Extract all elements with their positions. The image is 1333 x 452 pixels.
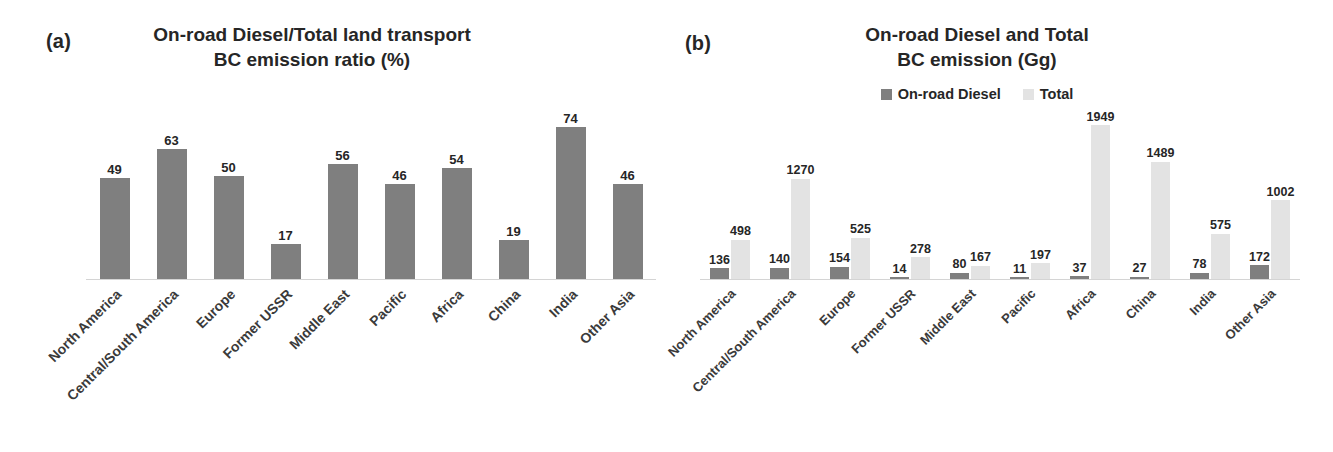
- panel-a-title-line2: BC emission ratio (%): [112, 47, 512, 72]
- bar-group: 49: [86, 110, 143, 279]
- x-axis-tick: Pacific: [1000, 282, 1060, 412]
- bar: [385, 184, 415, 279]
- bar-value-label: 46: [620, 169, 634, 182]
- bar-holder: 1949: [1091, 125, 1110, 279]
- bar-group: 46: [599, 110, 656, 279]
- bar-holder: 140: [770, 268, 789, 279]
- bar-value-label: 78: [1193, 258, 1207, 271]
- bar-holder: 37: [1070, 276, 1089, 279]
- bar-holder: 14: [890, 277, 909, 279]
- bar-column: 167: [971, 112, 990, 279]
- bar-holder: 154: [830, 267, 849, 279]
- x-axis-tick: Former USSR: [257, 282, 314, 412]
- x-axis-tick: Other Asia: [599, 282, 656, 412]
- bar-group: 54: [428, 110, 485, 279]
- bar-column: 37: [1070, 112, 1089, 279]
- legend-label: Total: [1040, 86, 1074, 102]
- bar-value-label: 27: [1133, 262, 1147, 275]
- panel-b-title-line1: On-road Diesel and Total: [762, 22, 1192, 47]
- x-axis-tick: Pacific: [371, 282, 428, 412]
- bar-column: 1002: [1271, 112, 1290, 279]
- bar-value-label: 575: [1210, 219, 1231, 232]
- x-axis-tick-text: India: [1187, 286, 1219, 318]
- bar-value-label: 19: [506, 225, 520, 238]
- bar-holder: 56: [328, 164, 358, 279]
- bar-column: 278: [911, 112, 930, 279]
- bar-group: 74: [542, 110, 599, 279]
- x-axis-tick: India: [1180, 282, 1240, 412]
- bar-value-label: 278: [910, 243, 931, 256]
- bar: [100, 178, 130, 279]
- bar-value-label: 172: [1249, 251, 1270, 264]
- bar-holder: 80: [950, 273, 969, 279]
- bar-column: 136: [710, 112, 729, 279]
- panel-b-x-axis-labels: North AmericaCentral/South AmericaEurope…: [700, 282, 1300, 412]
- x-axis-tick: Middle East: [314, 282, 371, 412]
- x-axis-tick: Other Asia: [1240, 282, 1300, 412]
- bar-column: 1270: [791, 112, 810, 279]
- bar-value-label: 17: [278, 229, 292, 242]
- panel-a-title-line1: On-road Diesel/Total land transport: [112, 22, 512, 47]
- x-axis-tick-text: China: [484, 286, 523, 325]
- legend-entry-total: Total: [1023, 86, 1074, 102]
- bar-column: 27: [1130, 112, 1149, 279]
- bar-value-label: 1270: [787, 164, 815, 177]
- bar: [830, 267, 849, 279]
- x-axis-tick-text: China: [1122, 286, 1158, 322]
- bar-holder: 136: [710, 268, 729, 279]
- bar-value-label: 50: [221, 161, 235, 174]
- bar-holder: 74: [556, 127, 586, 280]
- bar-column: 78: [1190, 112, 1209, 279]
- x-axis-tick-text: Africa: [426, 286, 465, 325]
- bar-holder: 172: [1250, 265, 1269, 279]
- bar-value-label: 74: [563, 112, 577, 125]
- bar-group: 371949: [1060, 112, 1120, 279]
- x-axis-tick: Central/South America: [143, 282, 200, 412]
- bar-value-label: 37: [1073, 262, 1087, 275]
- bar-value-label: 136: [709, 254, 730, 267]
- x-axis-tick-text: Europe: [192, 286, 237, 331]
- legend-swatch-icon: [881, 89, 892, 100]
- bar-value-label: 54: [449, 153, 463, 166]
- bar: [1070, 276, 1089, 279]
- bar-column: 498: [731, 112, 750, 279]
- bar-value-label: 1949: [1087, 111, 1115, 124]
- bar: [770, 268, 789, 279]
- bar-column: 575: [1211, 112, 1230, 279]
- bar-group: 271489: [1120, 112, 1180, 279]
- panel-a-tag: (a): [46, 30, 71, 53]
- bar-holder: 78: [1190, 273, 1209, 279]
- x-axis-tick-text: Europe: [816, 286, 858, 328]
- figure-two-panel-bar-charts: (a) On-road Diesel/Total land transport …: [0, 0, 1333, 452]
- bar-value-label: 498: [730, 225, 751, 238]
- bar: [1091, 125, 1110, 279]
- bar-group: 1721002: [1240, 112, 1300, 279]
- bar-column: 197: [1031, 112, 1050, 279]
- bar-value-label: 56: [335, 149, 349, 162]
- x-axis-tick: China: [485, 282, 542, 412]
- bar-holder: 46: [385, 184, 415, 279]
- bar-holder: 46: [613, 184, 643, 279]
- x-axis-tick-text: India: [545, 286, 579, 320]
- bar: [1010, 277, 1029, 279]
- bar-column: 46: [613, 110, 643, 279]
- bar: [1151, 162, 1170, 279]
- bar-value-label: 46: [392, 169, 406, 182]
- panel-a-x-axis-labels: North AmericaCentral/South AmericaEurope…: [86, 282, 656, 412]
- bar-holder: 54: [442, 168, 472, 279]
- panel-a-title: On-road Diesel/Total land transport BC e…: [112, 22, 512, 72]
- legend-entry-on-road-diesel: On-road Diesel: [881, 86, 1001, 102]
- x-axis-tick: Central/South America: [760, 282, 820, 412]
- bar-holder: 1489: [1151, 162, 1170, 279]
- bar-holder: 27: [1130, 277, 1149, 279]
- panel-b-title: On-road Diesel and Total BC emission (Gg…: [762, 22, 1192, 72]
- bar: [442, 168, 472, 279]
- bar: [1250, 265, 1269, 279]
- x-axis-tick: China: [1120, 282, 1180, 412]
- panel-b-legend: On-road DieselTotal: [762, 86, 1192, 102]
- bar-column: 1489: [1151, 112, 1170, 279]
- bar-value-label: 1002: [1267, 186, 1295, 199]
- bar-value-label: 11: [1013, 263, 1026, 276]
- bar-holder: 49: [100, 178, 130, 279]
- bar: [1190, 273, 1209, 279]
